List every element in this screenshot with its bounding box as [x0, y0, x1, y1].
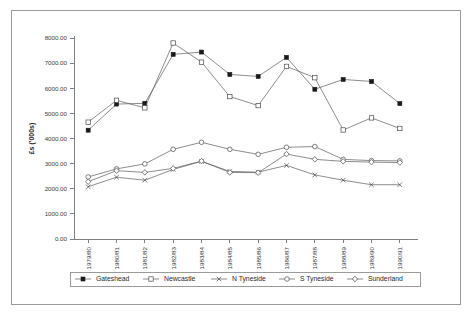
- y-tick-label: 0.00: [55, 235, 68, 242]
- line-chart: 0.001000.002000.003000.004000.005000.006…: [12, 11, 462, 306]
- legend-label: Gateshead: [96, 275, 129, 282]
- x-axis: 1979/801980/811981/821982/831983/841984/…: [74, 239, 418, 269]
- x-tick-label: 1983/84: [198, 246, 205, 269]
- y-tick-label: 5000.00: [45, 110, 68, 117]
- x-tick-label: 1988/89: [340, 246, 347, 269]
- legend-label: S Tyneside: [300, 275, 334, 283]
- x-tick-label: 1989/90: [368, 246, 375, 269]
- series-layer: [86, 41, 403, 189]
- x-tick-label: 1987/88: [311, 246, 318, 269]
- series-sunderland: [86, 151, 403, 184]
- x-tick-label: 1984/85: [226, 246, 233, 269]
- y-axis-title-text: £s ('000s): [28, 123, 36, 155]
- x-tick-label: 1982/83: [170, 246, 177, 269]
- chart-frame: 0.001000.002000.003000.004000.005000.006…: [11, 10, 461, 305]
- legend-label: Newcastle: [164, 275, 196, 282]
- series-s-tyneside: [86, 140, 402, 179]
- x-tick-label: 1986/87: [283, 246, 290, 269]
- y-tick-label: 3000.00: [45, 160, 68, 167]
- y-tick-label: 8000.00: [45, 34, 68, 41]
- series-gateshead: [86, 50, 402, 132]
- chart-legend: GatesheadNewcastleN TynesideS TynesideSu…: [70, 272, 420, 286]
- x-tick-label: 1981/82: [141, 246, 148, 269]
- x-tick-label: 1980/81: [113, 246, 120, 269]
- legend-label: Sunderland: [368, 275, 403, 282]
- x-tick-label: 1985/86: [255, 246, 262, 269]
- y-tick-label: 4000.00: [45, 135, 68, 142]
- legend-label: N Tyneside: [232, 275, 266, 283]
- series-n-tyneside: [86, 159, 402, 189]
- y-tick-label: 6000.00: [45, 85, 68, 92]
- x-tick-label: 1979/80: [85, 246, 92, 269]
- y-tick-label: 2000.00: [45, 185, 68, 192]
- legend-item-sunderland[interactable]: Sunderland: [347, 275, 403, 282]
- y-axis: 0.001000.002000.003000.004000.005000.006…: [45, 34, 74, 242]
- x-tick-label: 1990/91: [396, 246, 403, 269]
- y-axis-title: £s ('000s): [28, 123, 36, 155]
- y-tick-label: 7000.00: [45, 59, 68, 66]
- series-newcastle: [86, 41, 402, 132]
- y-tick-label: 1000.00: [45, 210, 68, 217]
